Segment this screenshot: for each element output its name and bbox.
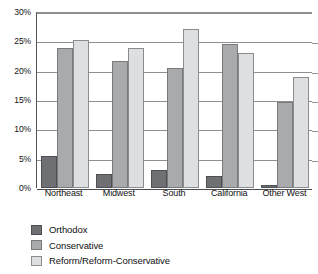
y-tick-mark (312, 131, 318, 132)
y-tick-label: 10% (14, 124, 31, 134)
y-tick-label: 0% (19, 183, 31, 193)
bar[interactable] (96, 174, 112, 188)
y-tick-mark (312, 73, 318, 74)
legend-swatch-icon (31, 256, 42, 266)
plot-area (36, 12, 312, 188)
y-tick-mark (312, 43, 318, 44)
y-tick-mark (312, 161, 318, 162)
y-tick-label: 30% (14, 7, 31, 17)
legend-item[interactable]: Orthodox (31, 223, 170, 236)
legend-label: Conservative (49, 240, 103, 251)
legend-swatch-icon (31, 240, 42, 250)
x-tick-label: Northeast (36, 188, 91, 206)
bar-group (147, 13, 202, 188)
x-tick-label: California (202, 188, 257, 206)
bars-layer (37, 13, 312, 188)
bar[interactable] (128, 48, 144, 188)
bar[interactable] (41, 156, 57, 188)
bar[interactable] (57, 48, 73, 188)
legend-item[interactable]: Conservative (31, 239, 170, 252)
bar-group (92, 13, 147, 188)
y-axis: 0%5%10%15%20%25%30% (0, 0, 34, 205)
bar[interactable] (73, 40, 89, 188)
y-tick-label: 20% (14, 66, 31, 76)
x-tick-label: Other West (257, 188, 312, 206)
y-tick-label: 5% (19, 154, 31, 164)
bar[interactable] (222, 44, 238, 188)
x-tick-label: Midwest (91, 188, 146, 206)
bar[interactable] (183, 29, 199, 188)
legend-item[interactable]: Reform/Reform-Conservative (31, 254, 170, 267)
y-tick-label: 15% (14, 95, 31, 105)
bar[interactable] (293, 77, 309, 188)
bar-group (37, 13, 92, 188)
bar-group (257, 13, 312, 188)
bar[interactable] (151, 170, 167, 188)
bar[interactable] (206, 176, 222, 188)
x-axis: NortheastMidwestSouthCaliforniaOther Wes… (36, 188, 312, 206)
bar[interactable] (277, 102, 293, 188)
legend-swatch-icon (31, 225, 42, 235)
plot-wrapper: 0%5%10%15%20%25%30% NortheastMidwestSout… (0, 0, 318, 205)
bar[interactable] (167, 68, 183, 188)
x-tick-label: South (146, 188, 201, 206)
bar-group (202, 13, 257, 188)
legend-label: Reform/Reform-Conservative (49, 255, 170, 266)
y-tick-label: 25% (14, 36, 31, 46)
y-tick-mark (312, 102, 318, 103)
bar-chart: 0%5%10%15%20%25%30% NortheastMidwestSout… (0, 0, 318, 274)
bar[interactable] (112, 61, 128, 188)
bar[interactable] (238, 53, 254, 188)
legend: OrthodoxConservativeReform/Reform-Conser… (31, 223, 170, 267)
legend-label: Orthodox (49, 224, 87, 235)
